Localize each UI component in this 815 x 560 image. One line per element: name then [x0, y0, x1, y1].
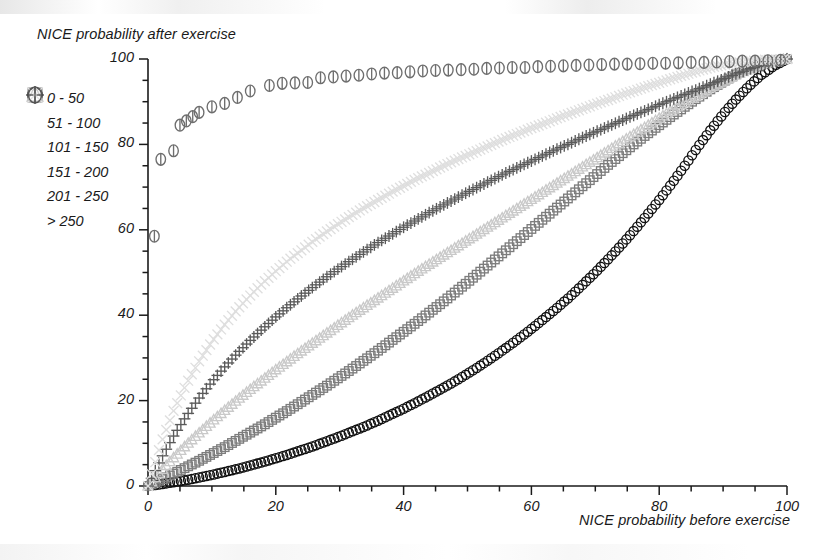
y-tick-label: 60 [0, 220, 134, 236]
series-250 [150, 54, 786, 242]
series-51-100 [144, 55, 792, 491]
x-tick-label: 80 [619, 498, 699, 514]
x-tick-label: 60 [491, 498, 571, 514]
x-tick-label: 0 [108, 498, 188, 514]
y-tick-label: 20 [0, 391, 134, 407]
x-tick-label: 20 [236, 498, 316, 514]
y-tick-label: 0 [0, 476, 134, 492]
y-tick-label: 80 [0, 134, 134, 150]
y-tick-label: 100 [0, 49, 134, 65]
x-tick-label: 40 [364, 498, 444, 514]
series-151-200 [142, 53, 793, 492]
y-tick-label: 40 [0, 305, 134, 321]
x-tick-label: 100 [747, 498, 815, 514]
series-101-150 [143, 54, 792, 490]
series-201-250 [143, 54, 792, 491]
series-0-50 [143, 54, 791, 490]
